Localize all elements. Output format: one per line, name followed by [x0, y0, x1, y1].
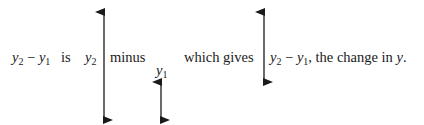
- label-y2: y2: [85, 50, 96, 65]
- expression-y2-minus-y1: y2 − y1: [12, 50, 50, 65]
- word-is: is: [61, 50, 71, 65]
- result-sentence: y2 − y1, the change in y.: [270, 50, 407, 65]
- label-y1: y1: [156, 63, 167, 78]
- phrase-which-gives: which gives: [184, 50, 254, 65]
- word-minus: minus: [110, 50, 145, 65]
